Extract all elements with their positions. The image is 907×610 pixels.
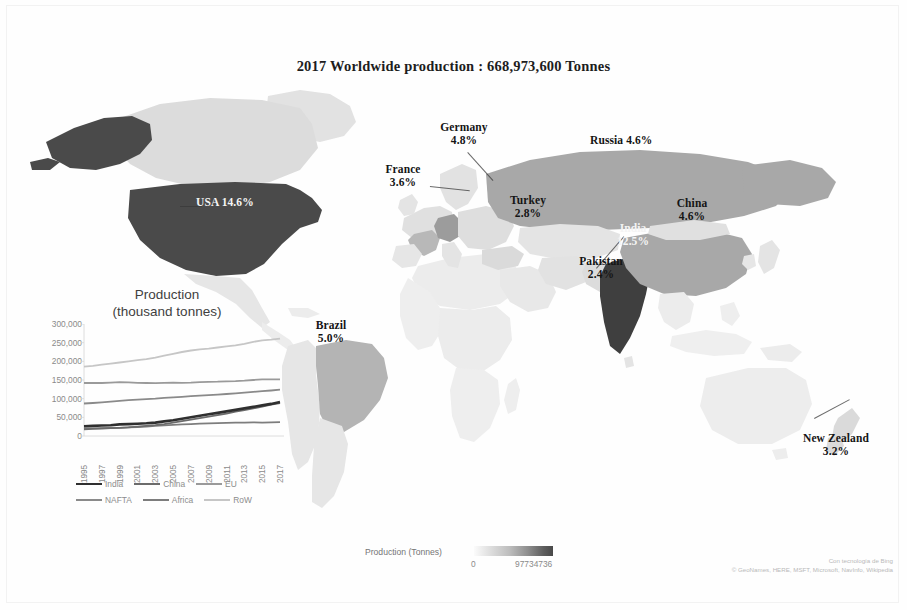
map-label-india-pct: 12.5% xyxy=(608,235,658,248)
colorbar-label: Production (Tonnes) xyxy=(365,547,442,557)
map-label-germany-pct: 4.8% xyxy=(420,134,508,147)
attribution-line-2: © GeoNames, HERE, MSFT, Microsoft, NavIn… xyxy=(732,566,893,575)
chart-title: Production (thousand tonnes) xyxy=(72,286,262,320)
country-germany xyxy=(434,214,462,242)
chart-plot-area xyxy=(26,324,284,444)
map-label-turkey-pct: 2.8% xyxy=(500,207,556,220)
colorbar-gradient xyxy=(474,546,553,556)
page-title: 2017 Worldwide production : 668,973,600 … xyxy=(0,58,907,75)
legend-swatch-icon xyxy=(204,499,230,501)
map-label-india: India 12.5% xyxy=(608,222,658,248)
chart-legend-row: NAFTAAfricaRoW xyxy=(76,492,284,508)
map-label-russia-name: Russia xyxy=(590,134,623,146)
map-label-brazil: Brazil 5.0% xyxy=(307,319,355,345)
chart-legend-label: EU xyxy=(225,479,237,489)
map-label-usa-pct: 14.6% xyxy=(222,196,254,208)
map-label-germany: Germany 4.8% xyxy=(420,121,508,147)
map-label-brazil-name: Brazil xyxy=(316,319,347,331)
map-label-germany-name: Germany xyxy=(440,121,487,133)
country-caribbean xyxy=(288,308,320,318)
chart-legend-item-china[interactable]: China xyxy=(134,479,185,489)
chart-legend-row: IndiaChinaEU xyxy=(76,476,284,492)
map-label-russia-pct: 4.6% xyxy=(626,134,652,146)
country-png xyxy=(760,344,802,362)
chart-legend-item-india[interactable]: India xyxy=(76,479,123,489)
country-seasia xyxy=(658,292,694,330)
chart-title-main: Production xyxy=(72,286,262,303)
chart-legend-label: China xyxy=(163,479,185,489)
screenshot-root: 2017 Worldwide production : 668,973,600 … xyxy=(0,0,907,610)
country-africa-south xyxy=(450,368,500,442)
legend-swatch-icon xyxy=(76,499,102,501)
chart-legend-item-row[interactable]: RoW xyxy=(204,495,252,505)
legend-swatch-icon xyxy=(76,483,102,486)
map-label-newzealand-name: New Zealand xyxy=(803,432,869,444)
map-label-china-pct: 4.6% xyxy=(666,210,718,223)
map-label-france: France 3.6% xyxy=(372,163,434,189)
country-indonesia xyxy=(670,330,752,356)
map-label-brazil-pct: 5.0% xyxy=(307,332,355,345)
chart-series-row xyxy=(84,339,280,367)
map-label-usa: USA 14.6% xyxy=(196,196,254,209)
legend-swatch-icon xyxy=(134,483,160,485)
country-madagascar xyxy=(504,378,520,414)
map-label-turkey: Turkey 2.8% xyxy=(500,194,556,220)
chart-lines xyxy=(26,324,286,446)
country-africa-central xyxy=(438,306,512,372)
map-label-pakistan: Pakistan 2.4% xyxy=(570,255,632,281)
map-label-usa-name: USA xyxy=(196,196,219,208)
country-philippines xyxy=(720,302,740,326)
country-argentina xyxy=(312,418,348,508)
chart-legend-item-africa[interactable]: Africa xyxy=(143,495,193,505)
legend-swatch-icon xyxy=(143,499,169,501)
map-label-france-name: France xyxy=(385,163,420,175)
colorbar-min-value: 0 xyxy=(471,559,476,569)
chart-legend-label: RoW xyxy=(233,495,252,505)
map-attribution: Con tecnología de Bing © GeoNames, HERE,… xyxy=(732,557,893,574)
map-label-france-pct: 3.6% xyxy=(372,176,434,189)
chart-legend-label: India xyxy=(105,479,123,489)
country-srilanka xyxy=(624,356,634,368)
chart-title-sub: (thousand tonnes) xyxy=(72,303,262,320)
chart-series-eu xyxy=(84,379,280,383)
map-label-pakistan-name: Pakistan xyxy=(579,255,623,267)
legend-swatch-icon xyxy=(196,483,222,485)
attribution-line-1: Con tecnología de Bing xyxy=(732,557,893,566)
map-label-pakistan-pct: 2.4% xyxy=(570,268,632,281)
chart-x-axis: 1995199719992001200320052007200920112013… xyxy=(84,438,280,474)
chart-legend-item-nafta[interactable]: NAFTA xyxy=(76,495,132,505)
production-line-chart: Production (thousand tonnes) 300,000250,… xyxy=(26,286,284,512)
country-japan xyxy=(758,240,780,274)
map-label-newzealand-pct: 3.2% xyxy=(790,445,882,458)
chart-legend-label: Africa xyxy=(172,495,193,505)
chart-series-nafta xyxy=(84,390,280,404)
map-label-russia: Russia 4.6% xyxy=(590,134,652,147)
country-tasmania xyxy=(772,448,788,460)
map-label-china-name: China xyxy=(677,197,708,209)
map-label-turkey-name: Turkey xyxy=(510,194,546,206)
colorbar-max-value: 97734736 xyxy=(515,559,552,569)
country-brazil xyxy=(316,340,388,432)
map-label-india-name: India xyxy=(620,222,647,234)
map-label-newzealand: New Zealand 3.2% xyxy=(790,432,882,458)
chart-legend-label: NAFTA xyxy=(105,495,132,505)
map-label-china: China 4.6% xyxy=(666,197,718,223)
chart-legend-item-eu[interactable]: EU xyxy=(196,479,237,489)
production-colorbar: Production (Tonnes) 0 97734736 xyxy=(365,546,570,576)
chart-legend: IndiaChinaEUNAFTAAfricaRoW xyxy=(76,476,284,508)
